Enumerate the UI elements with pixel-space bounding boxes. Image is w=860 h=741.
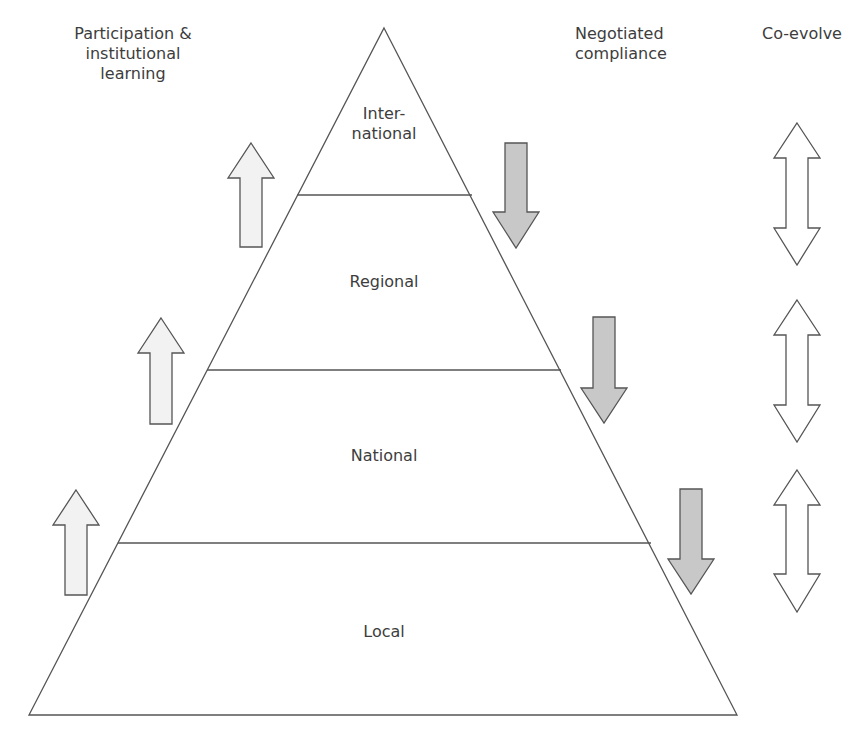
double-arrow-icon (774, 300, 820, 442)
header-co-evolve: Co-evolve (752, 24, 852, 44)
header-line: institutional (58, 44, 208, 64)
level-local: Local (314, 622, 454, 642)
level-international: Inter- national (324, 104, 444, 144)
level-label-line: National (314, 446, 454, 466)
level-label-line: national (324, 124, 444, 144)
down-arrow-icon (581, 317, 627, 423)
double-arrow-icon (774, 123, 820, 265)
up-arrow-icon (53, 490, 99, 595)
up-arrow-icon (138, 318, 184, 424)
level-national: National (314, 446, 454, 466)
level-label-line: Inter- (324, 104, 444, 124)
header-line: learning (58, 64, 208, 84)
header-line: Participation & (58, 24, 208, 44)
up-arrow-icon (228, 143, 274, 247)
level-label-line: Local (314, 622, 454, 642)
down-arrow-icon (668, 489, 714, 594)
header-line: Co-evolve (752, 24, 852, 44)
double-arrow-icon (774, 470, 820, 612)
level-label-line: Regional (314, 272, 454, 292)
header-line: Negotiated (575, 24, 685, 44)
header-participation: Participation & institutional learning (58, 24, 208, 84)
level-regional: Regional (314, 272, 454, 292)
header-line: compliance (575, 44, 685, 64)
down-arrow-icon (493, 143, 539, 248)
header-negotiated-compliance: Negotiated compliance (575, 24, 685, 64)
